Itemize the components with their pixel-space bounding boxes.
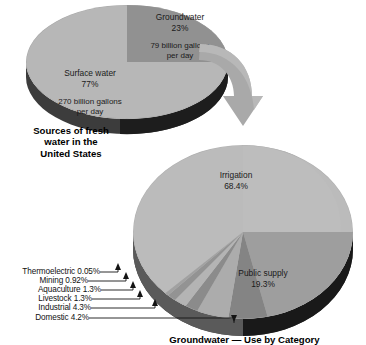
callout-mining: Mining 0.92% bbox=[0, 276, 88, 285]
label-public-supply-percent: 19.3% bbox=[251, 279, 275, 289]
label-surface-water-value-line1: 270 billion gallons bbox=[58, 97, 122, 106]
bottom-chart-caption: Groundwater — Use by Category bbox=[123, 334, 366, 345]
label-groundwater-value-line2: per day bbox=[167, 51, 194, 60]
leader-industrial bbox=[91, 304, 155, 308]
callout-livestock: Livestock 1.3% bbox=[0, 294, 92, 303]
callout-thermoelectric: Thermoelectric 0.05% bbox=[0, 267, 100, 276]
label-public-supply: Public supply bbox=[238, 268, 288, 278]
label-surface-water-value-line2: per day bbox=[77, 107, 104, 116]
label-groundwater-percent: 23% bbox=[172, 23, 189, 33]
label-irrigation-percent: 68.4% bbox=[224, 181, 248, 191]
callout-industrial: Industrial 4.3% bbox=[0, 303, 91, 312]
callout-aquaculture: Aquaculture 1.3% bbox=[0, 285, 101, 294]
callout-domestic: Domestic 4.2% bbox=[0, 313, 89, 322]
leader-aquaculture bbox=[101, 286, 133, 290]
bottom-pie-face bbox=[133, 140, 353, 320]
leader-livestock bbox=[92, 295, 140, 299]
page-title: Sources of fresh water in the United Sta… bbox=[6, 125, 136, 159]
label-surface-water-percent: 77% bbox=[82, 79, 99, 89]
label-surface-water: Surface water bbox=[64, 68, 116, 78]
label-irrigation: Irrigation bbox=[220, 170, 253, 180]
leader-mining bbox=[88, 277, 126, 281]
label-groundwater: Groundwater bbox=[156, 12, 205, 22]
